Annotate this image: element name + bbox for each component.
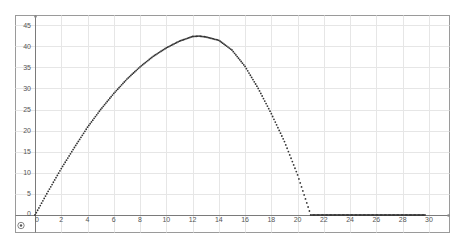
- data-point: [302, 190, 304, 192]
- data-point: [114, 91, 116, 93]
- data-point: [301, 186, 303, 188]
- data-point: [242, 62, 244, 64]
- data-point: [73, 147, 75, 149]
- data-point: [255, 83, 257, 85]
- data-point: [52, 181, 54, 183]
- y-axis-end-marker: [34, 15, 37, 18]
- data-point: [274, 121, 276, 123]
- data-point: [95, 116, 97, 118]
- plot-frame: [16, 16, 450, 233]
- data-point: [118, 87, 120, 89]
- data-point: [113, 93, 115, 95]
- data-point: [97, 112, 99, 114]
- data-point: [79, 138, 81, 140]
- data-point: [56, 175, 58, 177]
- data-point: [46, 193, 48, 195]
- x-tick-label: 30: [425, 216, 433, 223]
- data-point: [269, 110, 271, 112]
- data-point: [127, 77, 129, 79]
- y-tick-label: 35: [23, 64, 31, 71]
- x-tick-label: 22: [320, 216, 328, 223]
- y-tick-label: 10: [23, 169, 31, 176]
- data-point: [89, 123, 91, 125]
- data-point: [98, 110, 100, 112]
- data-point: [91, 121, 93, 123]
- data-point: [43, 198, 45, 200]
- data-point: [306, 202, 308, 204]
- data-point: [294, 167, 296, 169]
- data-point: [81, 134, 83, 136]
- data-point: [41, 202, 43, 204]
- data-point: [88, 125, 90, 127]
- data-point: [119, 85, 121, 87]
- data-point: [282, 138, 284, 140]
- data-point: [100, 109, 102, 111]
- data-point: [129, 76, 131, 78]
- data-point: [238, 57, 240, 59]
- data-point: [256, 85, 258, 87]
- data-point: [270, 113, 272, 115]
- data-point: [93, 117, 95, 119]
- data-point: [66, 159, 68, 161]
- data-point: [84, 130, 86, 132]
- data-point: [104, 104, 106, 106]
- data-point: [424, 214, 426, 216]
- data-point: [134, 71, 136, 73]
- data-point: [231, 49, 233, 51]
- data-point: [272, 116, 274, 118]
- data-point: [303, 194, 305, 196]
- data-point: [247, 70, 249, 72]
- data-point: [133, 72, 135, 74]
- data-point: [309, 210, 311, 212]
- data-point: [232, 51, 234, 53]
- data-point: [251, 77, 253, 79]
- data-point: [131, 73, 133, 75]
- data-point: [244, 66, 246, 68]
- data-point: [102, 105, 104, 107]
- data-point: [248, 72, 250, 74]
- data-point: [264, 100, 266, 102]
- data-point: [307, 206, 309, 208]
- x-tick-label: 18: [267, 216, 275, 223]
- data-point: [130, 75, 132, 77]
- data-point: [268, 108, 270, 110]
- data-point: [45, 195, 47, 197]
- data-point: [234, 52, 236, 54]
- data-point: [71, 151, 73, 153]
- x-tick-label: 14: [215, 216, 223, 223]
- data-point: [87, 126, 89, 128]
- data-point: [123, 81, 125, 83]
- data-point: [137, 68, 139, 70]
- x-tick-label: 4: [86, 216, 90, 223]
- data-point: [299, 182, 301, 184]
- data-point: [110, 96, 112, 98]
- y-tick-label: 40: [23, 43, 31, 50]
- data-point: [37, 209, 39, 211]
- data-point: [117, 88, 119, 90]
- data-point: [245, 68, 247, 70]
- data-point: [108, 99, 110, 101]
- data-point: [49, 188, 51, 190]
- data-point: [291, 161, 293, 163]
- data-point: [76, 143, 78, 145]
- data-point: [85, 128, 87, 130]
- data-point: [121, 84, 123, 86]
- x-tick-label: 12: [189, 216, 197, 223]
- x-tick-label: 16: [241, 216, 249, 223]
- data-point: [64, 161, 66, 163]
- data-point: [289, 154, 291, 156]
- data-point: [62, 166, 64, 168]
- data-point: [70, 153, 72, 155]
- x-tick-label: 10: [162, 216, 170, 223]
- data-point: [285, 144, 287, 146]
- data-point: [92, 119, 94, 121]
- data-point: [59, 170, 61, 172]
- data-point: [75, 145, 77, 147]
- data-point: [243, 64, 245, 66]
- data-point: [55, 177, 57, 179]
- x-tick-label: 6: [112, 216, 116, 223]
- data-point: [50, 186, 52, 188]
- x-tick-label: 2: [59, 216, 63, 223]
- data-point: [60, 168, 62, 170]
- y-tick-label: 30: [23, 85, 31, 92]
